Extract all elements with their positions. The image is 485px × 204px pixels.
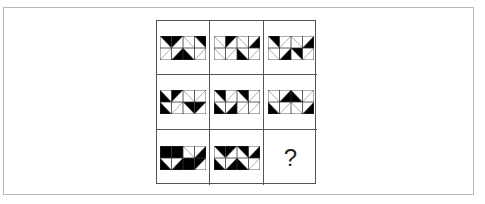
cell-r1-c2 [210,21,264,75]
cell-r2-c1 [157,75,210,130]
pattern-panel [214,146,260,170]
pattern-panel [160,146,206,170]
cell-r3-c2 [210,130,264,185]
cell-r1-c1 [157,21,210,75]
pattern-panel [160,36,206,60]
matrix-grid: ? [156,20,316,184]
pattern-panel [214,36,260,60]
cell-r2-c3 [264,75,317,130]
pattern-panel [268,90,314,114]
cell-r2-c2 [210,75,264,130]
question-mark: ? [284,146,297,170]
pattern-panel [214,90,260,114]
pattern-panel [160,90,206,114]
cell-r3-c1 [157,130,210,185]
cell-r3-c3-missing[interactable]: ? [264,130,317,185]
cell-r1-c3 [264,21,317,75]
pattern-panel [268,36,314,60]
